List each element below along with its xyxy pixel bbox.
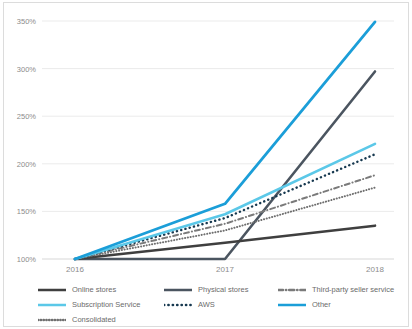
legend-swatch-physical-stores [164, 285, 192, 295]
legend-item-aws[interactable]: AWS [164, 298, 215, 312]
line-chart-svg: 100%150%200%250%300%350% 201620172018 [0, 0, 412, 272]
legend-swatch-consolidated [38, 315, 66, 325]
legend-label-third-party-seller-service: Third-party seller service [312, 285, 394, 295]
ytick-label: 350% [17, 17, 37, 26]
ytick-label: 200% [17, 160, 37, 169]
legend-label-online-stores: Online stores [72, 285, 116, 295]
legend-item-physical-stores[interactable]: Physical stores [164, 283, 248, 297]
chart-screenshot: 100%150%200%250%300%350% 201620172018 On… [0, 0, 412, 329]
legend-swatch-subscription-service [38, 300, 66, 310]
legend-label-subscription-service: Subscription Service [72, 300, 140, 310]
legend-item-online-stores[interactable]: Online stores [38, 283, 116, 297]
xtick-labels-group: 201620172018 [66, 265, 384, 272]
plot-area: 100%150%200%250%300%350% 201620172018 [0, 0, 412, 272]
ytick-label: 100% [17, 255, 37, 264]
legend-swatch-third-party-seller-service [278, 285, 306, 295]
ytick-labels-group: 100%150%200%250%300%350% [17, 17, 37, 264]
xtick-label: 2016 [66, 265, 84, 272]
ytick-label: 150% [17, 207, 37, 216]
legend-swatch-other [278, 300, 306, 310]
legend-label-aws: AWS [198, 300, 215, 310]
legend-label-consolidated: Consolidated [72, 315, 116, 325]
legend-item-consolidated[interactable]: Consolidated [38, 313, 116, 327]
ytick-label: 250% [17, 112, 37, 121]
legend-label-other: Other [312, 300, 331, 310]
chart-legend: Online stores Physical stores Third-part… [38, 283, 408, 327]
gridlines-group [42, 21, 394, 259]
ytick-label: 300% [17, 65, 37, 74]
legend-item-subscription-service[interactable]: Subscription Service [38, 298, 140, 312]
legend-item-third-party-seller-service[interactable]: Third-party seller service [278, 283, 394, 297]
series-lines-group [75, 22, 375, 259]
legend-swatch-online-stores [38, 285, 66, 295]
legend-label-physical-stores: Physical stores [198, 285, 248, 295]
legend-swatch-aws [164, 300, 192, 310]
xtick-label: 2017 [216, 265, 234, 272]
xtick-label: 2018 [366, 265, 384, 272]
legend-item-other[interactable]: Other [278, 298, 331, 312]
